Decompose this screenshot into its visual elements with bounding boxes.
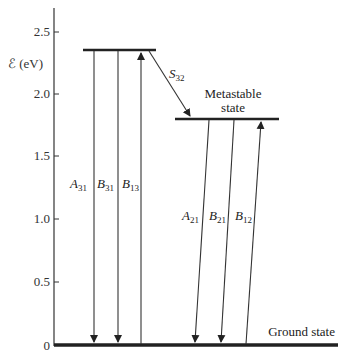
arrow-B21 (221, 120, 234, 342)
y-axis-ticks (54, 32, 59, 282)
arrow-S32 (149, 51, 190, 116)
metastable-label-line1: Metastable (204, 86, 261, 101)
tick-label: 0 (44, 338, 51, 353)
y-axis-tick-labels: 2.5 2.0 1.5 1.0 0.5 0 (34, 24, 50, 353)
tick-label: 1.5 (34, 148, 50, 163)
y-axis-label: ℰ (eV) (8, 56, 43, 71)
label-B12: B12 (235, 208, 252, 225)
label-B13: B13 (122, 176, 139, 193)
tick-label: 2.5 (34, 24, 50, 39)
arrow-A21 (195, 120, 209, 342)
label-B31: B31 (97, 176, 114, 193)
energy-level-diagram: 2.5 2.0 1.5 1.0 0.5 0 ℰ (eV) Metastable … (0, 0, 341, 354)
label-A31: A31 (69, 176, 87, 193)
arrow-B12 (246, 122, 261, 344)
label-A21: A21 (181, 208, 199, 225)
label-B21: B21 (209, 208, 226, 225)
tick-label: 1.0 (34, 211, 50, 226)
tick-label: 0.5 (34, 274, 50, 289)
label-S32: S32 (169, 66, 185, 83)
metastable-label-line2: state (221, 100, 245, 115)
tick-label: 2.0 (34, 86, 50, 101)
ground-state-label: Ground state (268, 324, 335, 339)
